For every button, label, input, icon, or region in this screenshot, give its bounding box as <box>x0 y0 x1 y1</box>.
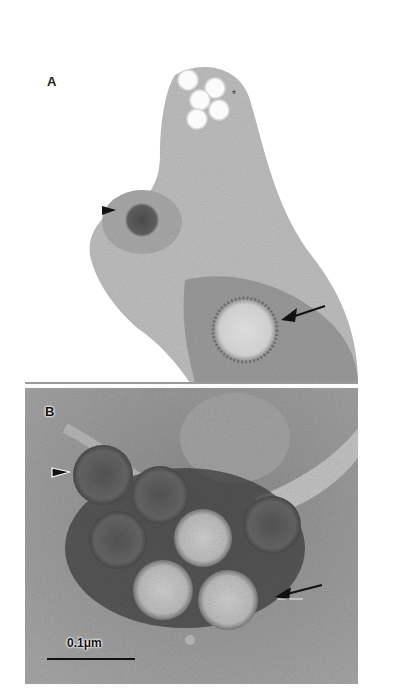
panel-a-label: A <box>47 74 56 89</box>
light-particle <box>213 298 277 362</box>
panel-a: A * <box>25 40 358 383</box>
panel-divider <box>25 382 358 384</box>
asterisk-marker: * <box>232 89 236 100</box>
micrograph-figure: A * <box>0 0 394 697</box>
scale-bar-label: 0.1μm <box>67 636 102 650</box>
dark-particle <box>125 203 159 237</box>
scale-bar <box>47 658 135 660</box>
panel-b-label: B <box>45 404 54 419</box>
panel-b: B 0.1μm <box>25 388 358 684</box>
panel-a-micrograph <box>25 40 358 383</box>
